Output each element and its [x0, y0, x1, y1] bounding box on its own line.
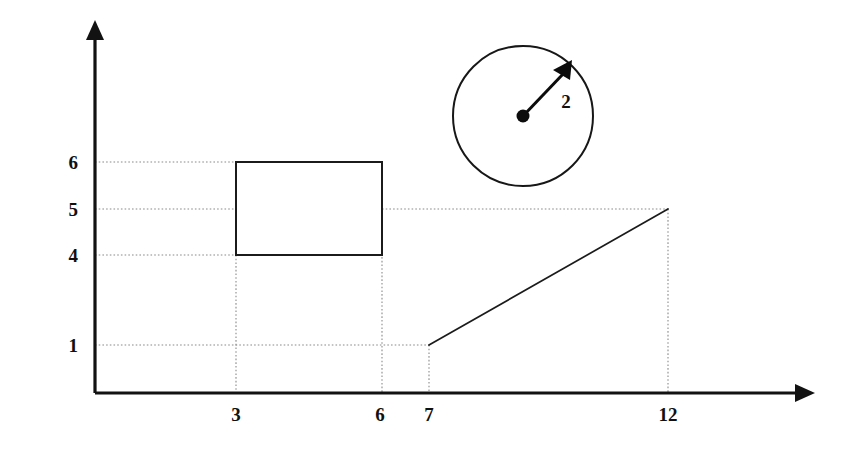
y-tick-label-5: 5 [52, 200, 78, 219]
y-tick-label-4: 4 [52, 246, 78, 265]
y-tick-label-6: 6 [52, 153, 78, 172]
x-tick-label-12: 12 [659, 405, 678, 424]
y-tick-label-1: 1 [52, 336, 78, 355]
radius-arrow-head [553, 60, 572, 80]
figure-canvas [0, 0, 845, 460]
circle-radius-label: 2 [561, 92, 571, 111]
x-tick-label-3: 3 [231, 405, 241, 424]
circle-center-dot [517, 110, 530, 123]
radius-line [523, 73, 564, 116]
vertical-gridlines [236, 209, 668, 392]
x-axis-arrow-head [795, 384, 815, 402]
geometry-figure: 6 5 4 1 3 6 7 12 2 [0, 0, 845, 460]
y-axis-arrow-head [86, 20, 104, 40]
ramp-line [429, 209, 668, 345]
circle-group [453, 46, 593, 186]
x-tick-label-6: 6 [375, 405, 385, 424]
x-tick-label-7: 7 [424, 405, 434, 424]
rectangle-shape [236, 162, 382, 255]
